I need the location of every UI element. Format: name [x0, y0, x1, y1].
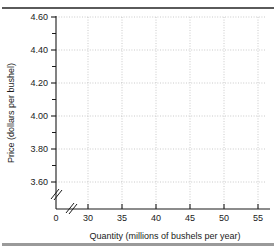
x-axis-title: Quantity (millions of bushels per year) — [89, 231, 240, 241]
x-tick-label-55: 55 — [253, 213, 263, 223]
x-tick-label-30: 30 — [83, 213, 93, 223]
y-tick-label-400: 4.00 — [30, 111, 48, 121]
x-tick-label-0: 0 — [53, 213, 58, 223]
y-tick-label-440: 4.40 — [30, 45, 48, 55]
y-tick-label-460: 4.60 — [30, 12, 48, 22]
grid-horizontal — [56, 17, 266, 182]
x-tick-label-50: 50 — [219, 213, 229, 223]
x-tick-label-40: 40 — [151, 213, 161, 223]
y-tick-label-380: 3.80 — [30, 144, 48, 154]
x-tick-label-35: 35 — [117, 213, 127, 223]
y-tick-label-420: 4.20 — [30, 78, 48, 88]
x-tick-label-45: 45 — [185, 213, 195, 223]
figure-container: 4.60 4.40 4.20 4.00 3.80 3.60 0 30 35 40… — [0, 0, 276, 251]
y-minor-ticks — [52, 34, 56, 166]
chart-svg: 4.60 4.40 4.20 4.00 3.80 3.60 0 30 35 40… — [0, 0, 276, 251]
y-tick-label-360: 3.60 — [30, 177, 48, 187]
grid-vertical — [88, 17, 258, 209]
x-major-ticks — [88, 204, 258, 209]
footer-rule — [2, 243, 274, 246]
y-axis-title: Price (dollars per bushel) — [6, 63, 16, 163]
